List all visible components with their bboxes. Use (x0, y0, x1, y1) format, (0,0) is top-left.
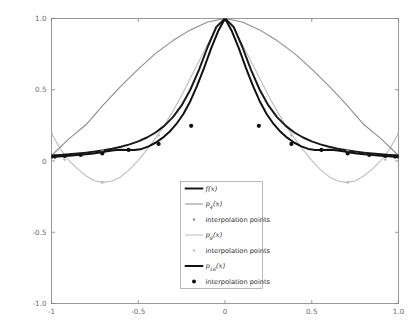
interpolation-point (79, 153, 83, 157)
x-tick-label: -1 (48, 307, 55, 316)
x-tick-label: -0.5 (131, 307, 145, 316)
interpolation-point (319, 148, 323, 152)
legend-swatch-marker (192, 280, 196, 284)
y-tick-label: -1.0 (32, 299, 46, 308)
legend-swatch-marker (193, 218, 195, 220)
x-tick-label: 0 (223, 307, 228, 316)
legend-label: interpolation points (206, 247, 271, 255)
interpolation-point (384, 158, 387, 161)
y-tick-label: 0.5 (35, 85, 46, 94)
interpolation-point (289, 142, 293, 146)
interpolation-point (63, 154, 67, 158)
legend-label: f(x) (205, 185, 218, 193)
interpolation-point (346, 151, 350, 155)
y-tick-label: -0.5 (32, 228, 46, 237)
interpolation-point (257, 124, 261, 128)
y-tick-label: 1.0 (35, 14, 47, 23)
interpolation-point (100, 151, 104, 155)
interpolation-point (157, 142, 161, 146)
interpolation-point (346, 181, 349, 184)
interpolation-point (290, 134, 293, 137)
x-tick-label: 1.0 (393, 307, 405, 316)
y-tick-label: 0 (42, 157, 47, 166)
interpolation-point (101, 181, 104, 184)
chart-plot: -1-0.500.51.01.00.50-0.5-1.0f(x)p4(x)int… (0, 0, 413, 331)
interpolation-point (63, 158, 66, 161)
legend-swatch-marker (193, 249, 195, 251)
interpolation-point (127, 148, 131, 152)
legend-label: interpolation points (206, 278, 271, 286)
interpolation-point (157, 134, 160, 137)
interpolation-point (367, 153, 371, 157)
figure-canvas: -1-0.500.51.01.00.50-0.5-1.0f(x)p4(x)int… (0, 0, 413, 331)
legend: f(x)p4(x)interpolation pointsp8(x)interp… (181, 182, 271, 289)
interpolation-point (383, 154, 387, 158)
legend-label: interpolation points (206, 216, 271, 224)
x-tick-label: 0.5 (306, 307, 317, 316)
interpolation-point (53, 154, 57, 158)
interpolation-point (189, 124, 193, 128)
